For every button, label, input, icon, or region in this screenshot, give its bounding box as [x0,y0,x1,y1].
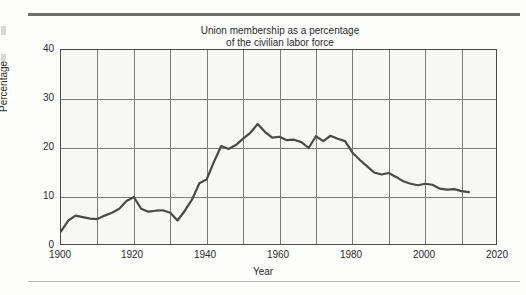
x-axis-tick-label: 2000 [404,249,444,260]
y-axis-tick-label: 10 [28,190,54,201]
x-axis-tick-label: 1980 [331,249,371,260]
chart-title-line-1: Union membership as a percentage [100,25,460,37]
y-axis-tick-label: 20 [28,141,54,152]
x-axis-label: Year [0,266,526,277]
page-edge-mark [1,26,6,35]
x-axis-tick-label: 1960 [258,249,298,260]
series-layer [61,50,498,246]
x-axis-tick-label: 1920 [112,249,152,260]
x-axis-tick-label: 1900 [40,249,80,260]
x-axis-tick-label: 2020 [477,249,517,260]
bottom-rule-divider [28,281,520,282]
y-axis-tick-label: 30 [28,92,54,103]
figure-container: Union membership as a percentage of the … [0,0,526,295]
y-axis-tick-label: 40 [28,43,54,54]
x-axis-tick-label: 1940 [185,249,225,260]
y-axis-label: Percentage [0,61,9,112]
plot-area [60,49,497,245]
chart-title-line-2: of the civilian labor force [100,37,460,49]
top-rule-divider [28,13,520,16]
chart-title: Union membership as a percentage of the … [100,25,460,49]
data-series-line [61,124,469,231]
